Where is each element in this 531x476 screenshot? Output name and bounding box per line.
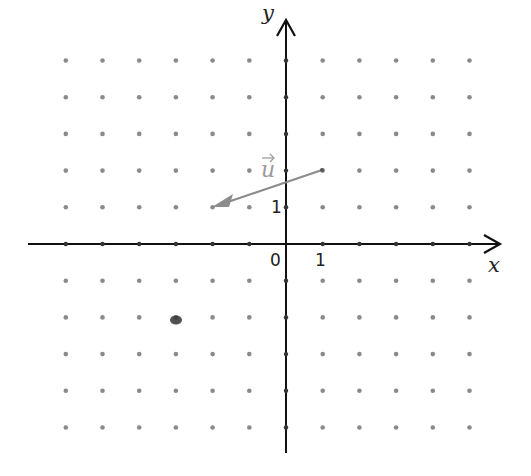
grid-dot	[467, 315, 472, 320]
grid-dot	[467, 352, 472, 357]
grid-dot	[210, 132, 215, 137]
grid-dot	[247, 168, 252, 173]
grid-dot	[431, 278, 436, 283]
grid-dot	[174, 425, 179, 430]
grid-dot	[357, 168, 362, 173]
grid-dot	[467, 205, 472, 210]
grid-dot	[100, 58, 105, 63]
grid-dot	[210, 389, 215, 394]
grid-dot	[174, 389, 179, 394]
y-tick	[284, 95, 288, 99]
grid-dot	[357, 58, 362, 63]
x-tick	[64, 242, 68, 246]
grid-dot	[394, 352, 399, 357]
grid-dot	[210, 352, 215, 357]
grid-dot	[431, 389, 436, 394]
x-tick	[210, 242, 214, 246]
grid-dot	[431, 352, 436, 357]
y-tick	[284, 279, 288, 283]
grid-dot	[394, 425, 399, 430]
grid-dot	[394, 205, 399, 210]
grid-dot	[100, 205, 105, 210]
y-tick	[284, 205, 288, 209]
y-tick	[284, 425, 288, 429]
grid-dot	[64, 389, 69, 394]
grid-dot	[431, 132, 436, 137]
grid-dot	[64, 278, 69, 283]
grid-dot	[100, 352, 105, 357]
grid-dot	[394, 315, 399, 320]
grid-dot	[174, 352, 179, 357]
grid-dot	[320, 95, 325, 100]
grid-dot	[100, 95, 105, 100]
grid-dot	[137, 205, 142, 210]
x-tick	[394, 242, 398, 246]
grid-dot	[174, 95, 179, 100]
grid-dot	[467, 278, 472, 283]
y-unit-label: 1	[271, 197, 282, 217]
grid-dot	[64, 58, 69, 63]
grid-dot	[431, 168, 436, 173]
grid-dot	[394, 168, 399, 173]
grid-dot	[320, 278, 325, 283]
y-tick	[284, 168, 288, 172]
grid-dot	[320, 132, 325, 137]
grid-dot	[357, 205, 362, 210]
grid-dot	[174, 58, 179, 63]
grid-dot	[210, 58, 215, 63]
grid-dot	[467, 95, 472, 100]
y-tick	[284, 389, 288, 393]
grid-dot	[64, 205, 69, 210]
grid-dot	[320, 58, 325, 63]
grid-dot	[100, 278, 105, 283]
grid-dot	[320, 425, 325, 430]
x-tick	[321, 242, 325, 246]
y-tick	[284, 132, 288, 136]
grid-dot	[431, 95, 436, 100]
grid-dot	[137, 132, 142, 137]
grid-dot	[247, 205, 252, 210]
x-axis-label: x	[488, 253, 500, 277]
grid-dot	[320, 315, 325, 320]
grid-dot	[394, 278, 399, 283]
grid-dot	[394, 58, 399, 63]
x-tick	[357, 242, 361, 246]
grid-dot	[64, 168, 69, 173]
grid-dot	[174, 278, 179, 283]
x-unit-label: 1	[315, 250, 326, 270]
grid-dot	[210, 278, 215, 283]
origin-label: 0	[270, 250, 281, 270]
grid-dot	[137, 315, 142, 320]
grid-dot	[100, 389, 105, 394]
grid-dot	[320, 352, 325, 357]
grid-dot	[467, 425, 472, 430]
grid-dot	[100, 168, 105, 173]
grid-dot	[137, 95, 142, 100]
grid-dot	[210, 168, 215, 173]
grid-dot	[357, 389, 362, 394]
grid-dot	[100, 132, 105, 137]
grid-dot	[247, 58, 252, 63]
grid-dot	[210, 425, 215, 430]
x-tick	[467, 242, 471, 246]
grid-dot	[320, 205, 325, 210]
grid-dot	[357, 95, 362, 100]
grid-dot	[247, 352, 252, 357]
y-tick	[284, 352, 288, 356]
grid-dot	[100, 315, 105, 320]
coordinate-plane	[0, 0, 531, 476]
grid-dot	[431, 58, 436, 63]
x-tick	[431, 242, 435, 246]
grid-dot	[357, 132, 362, 137]
grid-dot	[394, 95, 399, 100]
grid-dot	[64, 132, 69, 137]
y-axis-label: y	[262, 1, 274, 25]
grid-dot	[394, 132, 399, 137]
grid-dot	[247, 315, 252, 320]
grid-dot	[431, 425, 436, 430]
grid-dot	[467, 168, 472, 173]
grid-dot	[137, 168, 142, 173]
x-tick	[174, 242, 178, 246]
grid-dot	[394, 389, 399, 394]
x-tick	[137, 242, 141, 246]
